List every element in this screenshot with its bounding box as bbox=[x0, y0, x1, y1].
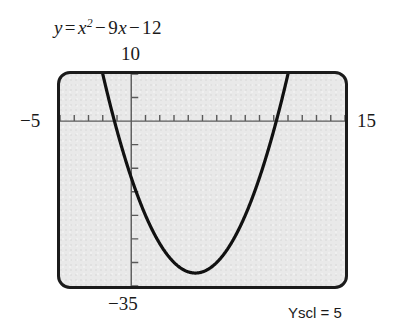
equation-term3-constant: 12 bbox=[142, 17, 162, 38]
equation-lhs: y bbox=[54, 17, 63, 38]
plot-area bbox=[60, 74, 345, 286]
equation-operator-2: − bbox=[127, 17, 142, 38]
tick-marks-group bbox=[60, 74, 345, 286]
equation-operator-1: − bbox=[93, 17, 108, 38]
x-min-label: −5 bbox=[20, 111, 40, 130]
equation-term1-base: x bbox=[78, 17, 87, 38]
equation-caption: y=x2−9x−12 bbox=[54, 18, 162, 37]
yscl-annotation: Yscl = 5 bbox=[288, 305, 342, 320]
axes-group bbox=[60, 74, 345, 286]
graph-figure: y=x2−9x−12 10 −5 15 −35 Yscl = 5 bbox=[0, 0, 398, 335]
y-min-label: −35 bbox=[108, 294, 138, 313]
x-max-label: 15 bbox=[357, 111, 376, 130]
equation-equals: = bbox=[63, 17, 78, 38]
y-max-label: 10 bbox=[121, 44, 140, 63]
calculator-screen bbox=[57, 71, 348, 289]
equation-term2-coefficient: 9 bbox=[108, 17, 118, 38]
equation-term2-variable: x bbox=[118, 17, 127, 38]
parabola-curve bbox=[103, 74, 288, 273]
